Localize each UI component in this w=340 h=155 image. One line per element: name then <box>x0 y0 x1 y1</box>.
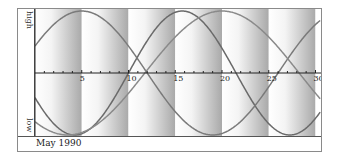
x-tick-label: 5 <box>80 74 85 83</box>
month-label: May 1990 <box>36 138 81 148</box>
biorhythm-chart: high low 51015202530 May 1990 <box>17 8 322 152</box>
plot-area: 51015202530 <box>18 9 321 136</box>
x-tick-label: 30 <box>314 74 322 83</box>
x-tick-label: 25 <box>267 74 277 83</box>
x-tick-label: 15 <box>173 74 183 83</box>
x-tick-label: 20 <box>220 74 230 83</box>
footer-row: May 1990 <box>18 136 321 151</box>
x-tick-label: 10 <box>127 74 137 83</box>
